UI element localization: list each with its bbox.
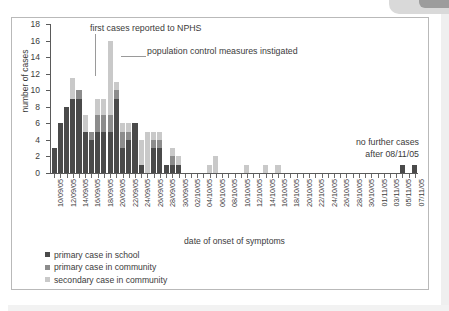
y-tick-label: 16 [31,36,40,45]
bar-segment [76,90,81,98]
bar-segment [151,140,156,148]
x-tick-mark [402,174,403,178]
x-tick-mark [247,174,248,178]
bar-segment [114,82,119,90]
x-tick-mark [415,174,416,178]
y-tick-label: 0 [35,169,40,178]
x-tick-label: 16/10/05 [281,179,288,207]
x-tick-label: 03/11/05 [393,179,400,206]
x-tick-mark [396,174,397,178]
legend-item[interactable]: primary case in school [45,249,167,260]
x-tick-label: 30/10/05 [368,179,375,207]
annotation-first-cases-leader-line [95,34,96,76]
x-tick-mark [309,174,310,178]
x-axis-tickmarks [51,174,418,178]
bar-segment [58,123,63,173]
x-tick-mark [371,174,372,178]
x-tick-mark [266,174,267,178]
x-tick-mark [91,174,92,178]
x-tick-mark [104,174,105,178]
x-tick-label: 28/09/05 [169,179,176,207]
x-tick-mark [241,174,242,178]
bar-segment [76,99,81,174]
legend-item[interactable]: primary case in community [45,262,167,273]
x-tick-label: 24/10/05 [331,179,338,207]
x-tick-mark [272,174,273,178]
legend-item-label: secondary case in community [54,275,167,285]
bar-segment [275,165,280,173]
x-tick-label: 26/10/05 [343,179,350,207]
bar-segment [95,115,100,132]
x-tick-mark [79,174,80,178]
bar-segment [95,99,100,116]
bar-segment [101,115,106,132]
chart-legend: primary case in schoolprimary case in co… [45,249,167,287]
x-tick-label: 08/10/05 [231,179,238,207]
bar-segment [126,123,131,131]
x-tick-label: 07/11/05 [418,179,425,206]
bar-segment [164,165,169,173]
x-tick-mark [278,174,279,178]
annotation-first-cases: first cases reported to NPHS [90,23,201,33]
x-tick-mark [98,174,99,178]
bar-segment [170,148,175,156]
x-tick-mark [210,174,211,178]
bar-segment [64,107,69,173]
bar-segment [114,99,119,174]
x-tick-mark [191,174,192,178]
x-tick-mark [253,174,254,178]
bar-segment [213,156,218,173]
x-tick-mark [135,174,136,178]
legend-swatch-icon [45,277,50,282]
x-tick-mark [334,174,335,178]
x-tick-label: 01/11/05 [381,179,388,206]
annotation-control-measures: population control measures instigated [147,46,298,56]
x-tick-label: 14/09/05 [82,179,89,207]
x-tick-mark [284,174,285,178]
x-axis-tick-labels: 10/09/0512/09/0514/09/0516/09/0518/09/05… [51,179,418,233]
bar-segment [108,132,113,173]
bar-segment [83,132,88,173]
x-tick-mark [328,174,329,178]
x-tick-mark [322,174,323,178]
bar-segment [139,165,144,173]
x-tick-label: 22/09/05 [132,179,139,207]
x-tick-mark [259,174,260,178]
x-tick-mark [73,174,74,178]
x-tick-mark [228,174,229,178]
bar-segment [101,132,106,173]
bar-segment [108,115,113,132]
y-axis-ticks: 024681012141618 [20,22,44,182]
bar-segment [70,99,75,174]
bar-segment [170,156,175,164]
x-tick-label: 16/09/05 [94,179,101,207]
x-tick-mark [129,174,130,178]
bar-segment [263,165,268,173]
legend-swatch-icon [45,252,50,257]
x-tick-label: 12/10/05 [256,179,263,207]
x-tick-mark [340,174,341,178]
plot-area: number of cases 024681012141618 10/09/05… [12,18,430,291]
bar-segment [95,132,100,173]
bar-segment [207,165,212,173]
x-tick-label: 02/10/05 [194,179,201,207]
chart-frame: number of cases 024681012141618 10/09/05… [11,17,429,290]
legend-item[interactable]: secondary case in community [45,274,167,285]
legend-item-label: primary case in school [54,250,140,260]
y-tick-label: 6 [35,119,40,128]
x-tick-mark [303,174,304,178]
x-tick-mark [290,174,291,178]
bar-segment [114,90,119,98]
y-tick-label: 18 [31,20,40,29]
y-tick-label: 8 [35,103,40,112]
y-tick-label: 2 [35,152,40,161]
x-tick-label: 30/09/05 [182,179,189,207]
x-tick-label: 28/10/05 [356,179,363,207]
x-tick-mark [365,174,366,178]
x-tick-label: 18/10/05 [293,179,300,207]
x-tick-mark [123,174,124,178]
bar-segment [151,148,156,173]
bar-segment [120,132,125,149]
bar-segment [89,140,94,173]
annotation-no-further-cases-line2: after 08/11/05 [356,149,419,161]
